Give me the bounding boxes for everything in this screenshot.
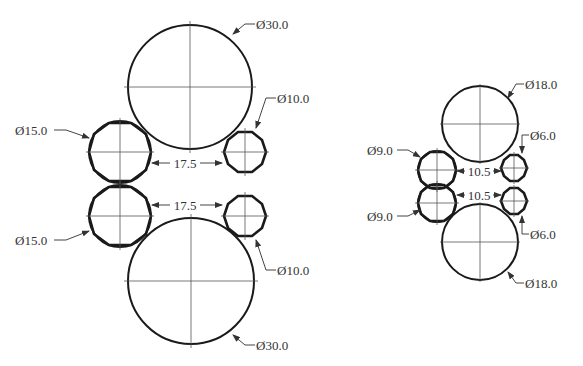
label-left-bottom-large: Ø30.0 [233, 335, 288, 353]
right-lower-spacing-dimension: 10.5 [457, 188, 501, 203]
label-right-lower-left: Ø9.0 [367, 209, 420, 224]
svg-text:10.5: 10.5 [468, 188, 491, 203]
svg-text:Ø15.0: Ø15.0 [15, 123, 47, 138]
left-upper-spacing-dimension: 17.5 [152, 156, 222, 171]
left-lower-right-circle [221, 192, 269, 240]
svg-text:Ø6.0: Ø6.0 [530, 128, 556, 143]
svg-text:Ø18.0: Ø18.0 [525, 77, 557, 92]
svg-text:Ø30.0: Ø30.0 [256, 338, 288, 353]
svg-text:Ø6.0: Ø6.0 [530, 227, 556, 242]
label-left-top-large: Ø30.0 [233, 17, 288, 34]
right-top-large-circle [440, 84, 520, 164]
svg-text:17.5: 17.5 [174, 156, 197, 171]
label-right-lower-right: Ø6.0 [522, 216, 556, 242]
left-lower-spacing-dimension: 17.5 [152, 198, 222, 213]
right-upper-spacing-dimension: 10.5 [457, 164, 501, 179]
label-left-upper-right: Ø10.0 [256, 91, 309, 128]
right-assembly: 10.5 10.5 Ø18.0 Ø9.0 Ø9.0 Ø6.0 Ø6.0 [367, 77, 557, 291]
label-left-lower-right: Ø10.0 [256, 240, 309, 278]
svg-text:Ø10.0: Ø10.0 [277, 91, 309, 106]
svg-text:Ø9.0: Ø9.0 [367, 143, 393, 158]
label-left-upper-left: Ø15.0 [15, 123, 89, 138]
label-right-top-large: Ø18.0 [508, 77, 557, 98]
right-upper-right-circle [499, 152, 529, 184]
svg-text:Ø30.0: Ø30.0 [256, 17, 288, 32]
label-right-upper-right: Ø6.0 [522, 128, 556, 153]
svg-text:Ø18.0: Ø18.0 [525, 276, 557, 291]
right-lower-left-circle [415, 181, 459, 225]
label-right-upper-left: Ø9.0 [367, 143, 420, 158]
svg-text:Ø10.0: Ø10.0 [277, 263, 309, 278]
svg-text:10.5: 10.5 [468, 164, 491, 179]
svg-text:Ø9.0: Ø9.0 [367, 209, 393, 224]
svg-text:Ø15.0: Ø15.0 [15, 233, 47, 248]
label-right-bottom-large: Ø18.0 [508, 272, 557, 291]
technical-drawing: 17.5 17.5 Ø30.0 Ø15.0 Ø15.0 Ø10.0 Ø10.0 [0, 0, 583, 366]
svg-text:17.5: 17.5 [174, 198, 197, 213]
left-assembly: 17.5 17.5 Ø30.0 Ø15.0 Ø15.0 Ø10.0 Ø10.0 [15, 17, 309, 353]
label-left-lower-left: Ø15.0 [15, 231, 89, 248]
